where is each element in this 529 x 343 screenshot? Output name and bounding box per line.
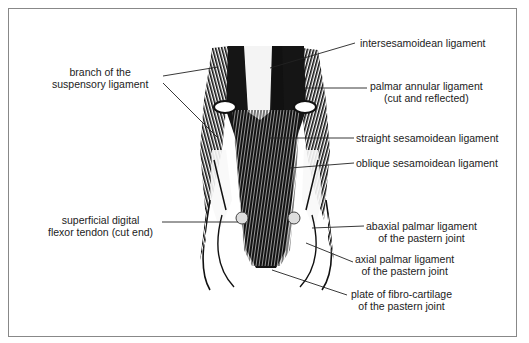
label-intersesamoidean-ligament: intersesamoidean ligament <box>360 37 486 49</box>
label-straight-sesamoidean-ligament: straight sesamoidean ligament <box>356 132 498 144</box>
label-palmar-annular-ligament: palmar annular ligament (cut and reflect… <box>370 80 483 104</box>
label-axial-palmar-ligament: axial palmar ligament of the pastern joi… <box>355 253 454 277</box>
label-superficial-digital-flexor-tendon: superficial digital flexor tendon (cut e… <box>48 214 153 238</box>
label-abaxial-palmar-ligament: abaxial palmar ligament of the pastern j… <box>366 220 477 244</box>
label-plate-of-fibro-cartilage: plate of fibro-cartilage of the pastern … <box>351 288 452 312</box>
label-oblique-sesamoidean-ligament: oblique sesamoidean ligament <box>356 157 498 169</box>
label-branch-suspensory-ligament: branch of the suspensory ligament <box>52 66 148 90</box>
fetlock-structure <box>200 46 334 290</box>
